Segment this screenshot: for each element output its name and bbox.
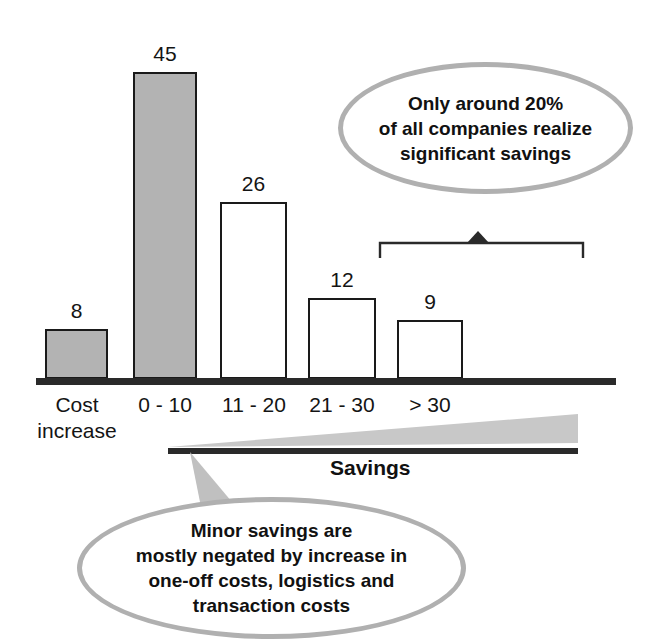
callout-top-text: Only around 20% of all companies realize…: [379, 91, 592, 166]
callout-top-line1: Only around 20%: [379, 91, 592, 116]
bar-value-0-10: 45: [133, 42, 197, 66]
bar-0-10: [133, 72, 197, 379]
callout-top-line3: significant savings: [379, 141, 592, 166]
bar-over-30: [397, 320, 463, 379]
savings-wedge-svg: [168, 414, 578, 449]
callout-top: Only around 20% of all companies realize…: [338, 62, 633, 194]
bar-cost-increase: [45, 329, 108, 379]
x-axis-title: Savings: [330, 456, 411, 480]
bar-value-21-30: 12: [308, 268, 376, 292]
callout-bottom: Minor savings are mostly negated by incr…: [77, 497, 466, 639]
x-axis-baseline: [36, 378, 616, 385]
callout-bottom-line4: transaction costs: [136, 593, 407, 618]
bar-11-20: [220, 202, 287, 379]
callout-bottom-line3: one-off costs, logistics and: [136, 568, 407, 593]
callout-bottom-text: Minor savings are mostly negated by incr…: [136, 518, 407, 618]
bar-value-11-20: 26: [220, 172, 287, 196]
bar-value-cost-increase: 8: [45, 299, 108, 323]
callout-bottom-line2: mostly negated by increase in: [136, 543, 407, 568]
chart-figure: 8 45 26 12 9 Cost increase 0 - 10 11 - 2…: [0, 0, 648, 641]
savings-gradient-wedge: [168, 414, 578, 449]
top-callout-tail: [430, 186, 550, 246]
callout-bottom-line1: Minor savings are: [136, 518, 407, 543]
bar-value-over-30: 9: [397, 290, 463, 314]
bar-21-30: [308, 298, 376, 379]
x-tick-label-cost-increase-line2: increase: [18, 418, 136, 444]
callout-top-line2: of all companies realize: [379, 116, 592, 141]
